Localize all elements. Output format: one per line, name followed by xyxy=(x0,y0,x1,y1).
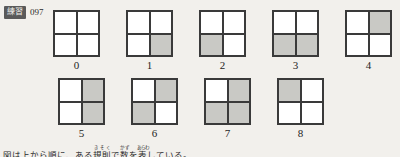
grid-cell-top-right xyxy=(224,12,245,33)
grid-cell-bottom-left xyxy=(133,103,154,124)
grid-item-2: 2 xyxy=(199,10,246,71)
grid-number-label: 7 xyxy=(225,128,231,139)
grid-cell-bottom-left xyxy=(274,35,295,56)
grid-cell-top-left xyxy=(60,80,81,101)
grid-item-7: 7 xyxy=(204,78,251,139)
grid-cell-top-right xyxy=(370,12,391,33)
grid-number-label: 1 xyxy=(147,60,153,71)
grid-cell-top-right xyxy=(302,80,323,101)
practice-badge: 練習 xyxy=(4,6,26,19)
four-cell-grid xyxy=(53,10,100,57)
grid-cell-bottom-left xyxy=(201,35,222,56)
grid-cell-top-left xyxy=(128,12,149,33)
exercise-page: 練習 097 01234 5678 図は上から順に、ある規則きそくで数かずを表あ… xyxy=(0,0,400,157)
grid-item-8: 8 xyxy=(277,78,324,139)
grid-cell-top-left xyxy=(279,80,300,101)
exercise-header: 練習 097 xyxy=(4,6,44,19)
grid-cell-top-left xyxy=(206,80,227,101)
grid-item-1: 1 xyxy=(126,10,173,71)
exercise-caption: 図は上から順に、ある規則きそくで数かずを表あらわしている。 xyxy=(3,145,397,157)
grid-number-label: 6 xyxy=(152,128,158,139)
four-cell-grid xyxy=(58,78,105,125)
grid-cell-top-left xyxy=(201,12,222,33)
four-cell-grid xyxy=(204,78,251,125)
grid-cell-top-left xyxy=(347,12,368,33)
grid-cell-top-right xyxy=(83,80,104,101)
four-cell-grid xyxy=(199,10,246,57)
grid-number-label: 5 xyxy=(79,128,85,139)
grid-row-bottom: 5678 xyxy=(58,78,324,139)
grid-cell-top-right xyxy=(151,12,172,33)
grid-cell-bottom-right xyxy=(297,35,318,56)
grid-item-5: 5 xyxy=(58,78,105,139)
grid-number-label: 0 xyxy=(74,60,80,71)
grid-number-label: 4 xyxy=(366,60,372,71)
grid-cell-bottom-left xyxy=(55,35,76,56)
four-cell-grid xyxy=(272,10,319,57)
grid-row-top: 01234 xyxy=(53,10,392,71)
grid-item-0: 0 xyxy=(53,10,100,71)
exercise-number: 097 xyxy=(30,8,44,17)
grid-item-6: 6 xyxy=(131,78,178,139)
four-cell-grid xyxy=(126,10,173,57)
grid-cell-bottom-right xyxy=(229,103,250,124)
grid-cell-bottom-left xyxy=(206,103,227,124)
four-cell-grid xyxy=(345,10,392,57)
four-cell-grid xyxy=(277,78,324,125)
grid-cell-bottom-right xyxy=(156,103,177,124)
grid-item-4: 4 xyxy=(345,10,392,71)
grid-cell-bottom-left xyxy=(128,35,149,56)
grid-number-label: 3 xyxy=(293,60,299,71)
grid-number-label: 8 xyxy=(298,128,304,139)
grid-cell-bottom-right xyxy=(151,35,172,56)
grid-cell-top-left xyxy=(55,12,76,33)
grid-cell-bottom-right xyxy=(83,103,104,124)
grid-number-label: 2 xyxy=(220,60,226,71)
grid-cell-bottom-left xyxy=(60,103,81,124)
grid-cell-bottom-right xyxy=(78,35,99,56)
grid-cell-top-left xyxy=(133,80,154,101)
grid-cell-bottom-left xyxy=(279,103,300,124)
grid-cell-bottom-left xyxy=(347,35,368,56)
grid-cell-bottom-right xyxy=(302,103,323,124)
grid-cell-top-right xyxy=(78,12,99,33)
grid-item-3: 3 xyxy=(272,10,319,71)
grid-cell-top-right xyxy=(156,80,177,101)
grid-cell-bottom-right xyxy=(370,35,391,56)
grid-cell-top-right xyxy=(297,12,318,33)
four-cell-grid xyxy=(131,78,178,125)
grid-cell-bottom-right xyxy=(224,35,245,56)
grid-cell-top-left xyxy=(274,12,295,33)
grid-cell-top-right xyxy=(229,80,250,101)
